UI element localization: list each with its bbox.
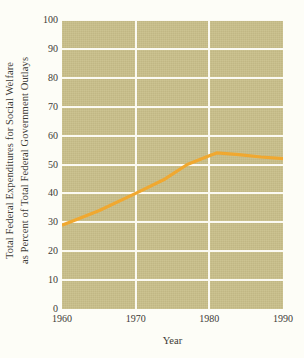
y-axis-tick-labels: 0102030405060708090100: [34, 20, 58, 309]
y-axis-title-line-2: as Percent of Total Federal Government O…: [18, 56, 33, 263]
series-line-social-welfare: [62, 153, 283, 225]
y-tick-label: 30: [34, 217, 58, 227]
x-tick-label: 1960: [52, 313, 72, 325]
y-tick-label: 60: [34, 131, 58, 141]
y-tick-label: 100: [34, 15, 58, 25]
y-tick-label: 50: [34, 160, 58, 170]
data-series-layer: [62, 20, 283, 309]
x-tick-label: 1980: [199, 313, 219, 325]
x-axis-tick-labels: 1960197019801990: [62, 313, 283, 329]
y-tick-label: 20: [34, 246, 58, 256]
y-tick-label: 10: [34, 275, 58, 285]
y-axis-title: Total Federal Expenditures for Social We…: [0, 0, 36, 320]
chart-figure: Total Federal Expenditures for Social We…: [0, 0, 304, 358]
plot-area: [62, 20, 283, 309]
y-tick-label: 80: [34, 73, 58, 83]
x-tick-label: 1970: [126, 313, 146, 325]
y-tick-label: 70: [34, 102, 58, 112]
y-tick-label: 90: [34, 44, 58, 54]
y-axis-title-line-1: Total Federal Expenditures for Social We…: [4, 56, 19, 263]
y-tick-label: 40: [34, 188, 58, 198]
x-tick-label: 1990: [273, 313, 293, 325]
x-axis-title: Year: [62, 334, 283, 347]
